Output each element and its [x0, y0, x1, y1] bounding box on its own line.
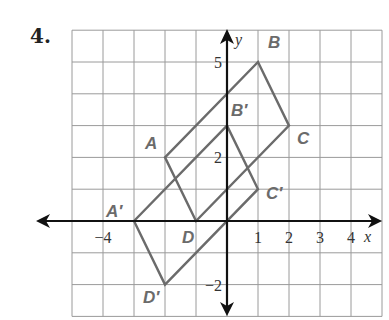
y-axis-label: y	[233, 31, 243, 49]
y-axis	[220, 29, 234, 316]
x-tick-label: 3	[316, 229, 324, 246]
x-axis-label: x	[363, 228, 371, 245]
vertex-label: B	[268, 33, 280, 52]
vertex-labels: ABCDA′B′C′D′	[105, 33, 310, 307]
y-tick-label: −2	[205, 277, 222, 294]
coordinate-plane: −4123452−2 x y ABCDA′B′C′D′	[0, 0, 389, 320]
y-tick-label: 5	[214, 54, 222, 71]
vertex-label: B′	[231, 101, 248, 120]
vertex-label: A	[144, 134, 157, 153]
vertex-label: A′	[105, 202, 123, 221]
x-tick-label: 1	[254, 229, 262, 246]
vertex-label: D	[182, 228, 194, 247]
parallelograms	[134, 62, 289, 285]
x-tick-label: −4	[94, 229, 111, 246]
x-axis	[36, 214, 382, 228]
vertex-label: D′	[143, 288, 160, 307]
x-tick-label: 2	[285, 229, 293, 246]
x-tick-label: 4	[347, 229, 355, 246]
vertex-label: C	[297, 129, 310, 148]
y-tick-label: 2	[214, 149, 222, 166]
vertex-label: C′	[266, 184, 283, 203]
